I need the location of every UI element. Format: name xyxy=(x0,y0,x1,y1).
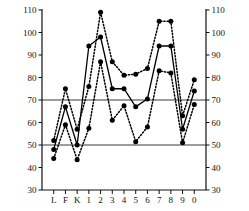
right-tick-label-110: 110 xyxy=(212,5,226,15)
right-tick-label-100: 100 xyxy=(212,28,226,38)
right-tick-label-70: 70 xyxy=(212,95,222,105)
data-point-lower-8 xyxy=(168,71,173,76)
data-point-lower-1 xyxy=(86,126,91,131)
left-tick-label-80: 80 xyxy=(28,73,38,83)
x-tick-label-6: 6 xyxy=(145,195,150,205)
data-point-middle-1 xyxy=(86,44,91,49)
left-tick-label-60: 60 xyxy=(28,118,38,128)
data-point-upper-7 xyxy=(157,19,162,24)
data-point-middle-3 xyxy=(110,86,115,91)
data-point-lower-0 xyxy=(192,102,197,107)
left-tick-label-70: 70 xyxy=(28,95,38,105)
x-tick-label-3: 3 xyxy=(110,195,115,205)
x-tick-label-1: 1 xyxy=(87,195,92,205)
data-point-upper-F xyxy=(63,86,68,91)
right-tick-label-50: 50 xyxy=(212,140,222,150)
left-tick-label-110: 110 xyxy=(23,5,37,15)
data-point-middle-K xyxy=(75,143,80,148)
data-point-middle-4 xyxy=(122,86,127,91)
data-point-upper-8 xyxy=(168,19,173,24)
data-point-middle-7 xyxy=(157,44,162,49)
data-point-lower-7 xyxy=(157,68,162,73)
data-point-lower-5 xyxy=(133,139,138,144)
x-tick-label-8: 8 xyxy=(169,195,174,205)
data-point-upper-4 xyxy=(122,73,127,78)
data-point-middle-F xyxy=(63,104,68,109)
x-tick-label-4: 4 xyxy=(122,195,127,205)
data-point-lower-L xyxy=(51,156,56,161)
right-tick-label-90: 90 xyxy=(212,50,222,60)
data-point-lower-3 xyxy=(110,118,115,123)
data-point-upper-5 xyxy=(133,72,138,77)
data-point-middle-0 xyxy=(192,89,197,94)
x-tick-label-0: 0 xyxy=(192,195,197,205)
x-tick-label-K: K xyxy=(74,195,81,205)
profile-line-chart: 3030404050506060707080809090100100110110… xyxy=(0,0,249,211)
right-tick-label-60: 60 xyxy=(212,118,222,128)
left-tick-label-90: 90 xyxy=(28,50,38,60)
left-tick-label-30: 30 xyxy=(28,185,38,195)
right-tick-label-30: 30 xyxy=(212,185,222,195)
x-tick-label-L: L xyxy=(51,195,57,205)
data-point-middle-6 xyxy=(145,96,150,101)
right-tick-label-80: 80 xyxy=(212,73,222,83)
data-point-lower-4 xyxy=(122,103,127,108)
data-point-lower-K xyxy=(75,157,80,162)
data-point-lower-9 xyxy=(180,140,185,145)
data-point-middle-8 xyxy=(168,44,173,49)
left-tick-label-100: 100 xyxy=(23,28,37,38)
series-line-middle xyxy=(54,37,195,150)
data-point-upper-2 xyxy=(98,10,103,15)
data-point-upper-0 xyxy=(192,77,197,82)
data-point-middle-5 xyxy=(133,104,138,109)
x-tick-label-5: 5 xyxy=(133,195,138,205)
chart-plot-area: 3030404050506060707080809090100100110110… xyxy=(0,0,249,211)
x-tick-label-2: 2 xyxy=(98,195,103,205)
x-tick-label-7: 7 xyxy=(157,195,162,205)
x-tick-label-F: F xyxy=(63,195,68,205)
data-point-upper-6 xyxy=(145,66,150,71)
data-point-middle-2 xyxy=(98,35,103,40)
data-point-upper-3 xyxy=(110,59,115,64)
data-point-lower-2 xyxy=(98,59,103,64)
data-point-lower-6 xyxy=(145,125,150,130)
right-tick-label-40: 40 xyxy=(212,163,222,173)
x-tick-label-9: 9 xyxy=(180,195,185,205)
left-tick-label-50: 50 xyxy=(28,140,38,150)
left-tick-label-40: 40 xyxy=(28,163,38,173)
data-point-upper-1 xyxy=(86,84,91,89)
data-point-lower-F xyxy=(63,122,68,127)
